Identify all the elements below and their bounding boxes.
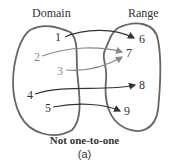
range-value-8: 8 [139,78,145,93]
arrow-5-to-9 [53,104,120,111]
diagram-sublabel: (a) [0,148,169,160]
domain-value-2: 2 [34,50,40,65]
arrow-2-to-7 [42,48,122,56]
domain-set-outline [13,26,80,135]
arrow-1-to-6 [65,30,134,38]
domain-value-1: 1 [55,30,61,45]
domain-value-3: 3 [57,64,63,79]
arrow-3-to-7 [66,57,122,70]
domain-label: Domain [32,6,71,21]
range-set-outline [104,24,161,131]
diagram-caption: Not one-to-one [0,134,169,146]
range-value-7: 7 [126,46,132,61]
domain-value-5: 5 [45,101,51,116]
range-value-6: 6 [139,32,145,47]
range-value-9: 9 [124,104,130,119]
arrow-4-to-8 [35,85,135,94]
domain-value-4: 4 [27,88,33,103]
range-label: Range [128,6,159,21]
